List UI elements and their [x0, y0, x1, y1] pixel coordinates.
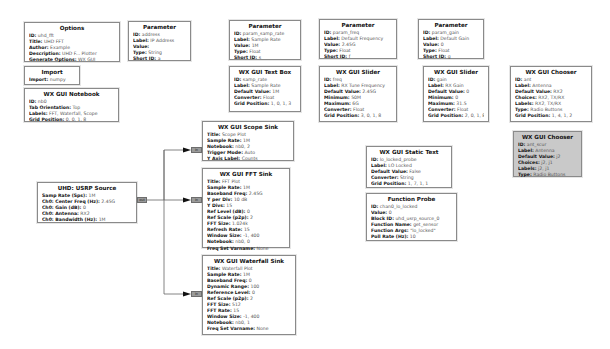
param-key: Type: [133, 50, 147, 55]
block-param-row: Grid Position: 1, 4, 1, 2 [515, 113, 587, 119]
param-value: 15 [233, 308, 239, 313]
block-parameter-samp-rate[interactable]: ParameterID: param_samp_rateLabel: Sampl… [229, 20, 301, 60]
param-key: Maximum: [428, 101, 455, 106]
block-param-row: Short ID: f [324, 54, 392, 60]
param-value: RX2 [80, 211, 89, 216]
param-value: Sample Rate [251, 83, 280, 88]
param-key: Label: [518, 148, 534, 153]
block-title: WX GUI Slider [324, 69, 392, 77]
param-key: Value: [234, 43, 250, 48]
block-wx-gui-waterfall-sink[interactable]: WX GUI Waterfall SinkTitle: Waterfall Pl… [202, 255, 296, 335]
param-key: Block ID: [371, 216, 394, 221]
waterfall-sink-in-port[interactable]: in [191, 291, 202, 297]
param-key: Choices: [518, 160, 540, 165]
block-wx-gui-scope-sink[interactable]: WX GUI Scope SinkTitle: Scope PlotSample… [202, 121, 294, 161]
param-key: Sample Rate: [207, 138, 242, 143]
param-value: Counts [242, 156, 258, 161]
param-key: Grid Position: [324, 113, 359, 118]
param-value: 1, 7, 1, 1 [408, 181, 428, 186]
param-key: ID: [324, 30, 331, 35]
block-param-row: Import: numpy [29, 77, 75, 83]
param-value: param_freq [333, 30, 359, 35]
param-value: 2.45G [101, 199, 115, 204]
block-uhd-usrp-source[interactable]: UHD: USRP SourceSamp Rate (Sps): 1MCh0: … [37, 182, 137, 223]
param-value: Default Frequency [341, 36, 383, 41]
block-wx-gui-notebook[interactable]: WX GUI NotebookID: nb0Tab Orientation: T… [24, 88, 119, 122]
param-key: Ch0: Center Freq (Hz): [42, 199, 100, 204]
param-key: Converter: [324, 107, 352, 112]
param-value: 0 [441, 42, 444, 47]
param-key: Label: [371, 163, 387, 168]
usrp-source-out-port[interactable]: out [137, 197, 147, 203]
block-import[interactable]: ImportImport: numpy [24, 66, 80, 85]
param-key: Label: [234, 37, 250, 42]
block-param-row: Freq Set Varname: None [207, 326, 291, 332]
param-key: Type: [324, 48, 338, 53]
block-wx-gui-slider-gain[interactable]: WX GUI SliderID: gainLabel: RX GainDefau… [423, 66, 489, 122]
param-key: ID: [371, 204, 378, 209]
block-wx-gui-static-text[interactable]: WX GUI Static TextID: lo_locked_probeLab… [366, 146, 452, 188]
block-wx-gui-text-box[interactable]: WX GUI Text BoxID: samp_rateLabel: Sampl… [229, 66, 301, 112]
param-value: 0 [389, 210, 392, 215]
param-value: Float [339, 48, 350, 53]
param-key: Notebook: [207, 239, 234, 244]
param-value: 6G [352, 101, 358, 106]
param-value: RX2, TX/RX [538, 95, 564, 100]
param-key: Labels: [518, 166, 537, 171]
param-value: Float [249, 49, 260, 54]
param-value: 0 [249, 278, 252, 283]
param-value: 1M [272, 89, 279, 94]
block-title: Import [29, 69, 75, 77]
block-title: Parameter [423, 22, 479, 30]
param-value: 0 [247, 209, 250, 214]
block-param-row: Grid Position: 1, 7, 1, 1 [371, 181, 447, 187]
block-wx-gui-slider-freq[interactable]: WX GUI SliderID: freqLabel: RX Tune Freq… [319, 66, 397, 122]
param-value: Top [72, 105, 80, 110]
scope-sink-in-port[interactable]: in [191, 147, 202, 153]
block-options[interactable]: OptionsID: uhd_fftTitle: UHD FFTAuthor: … [24, 22, 120, 62]
param-key: ID: [234, 77, 241, 82]
param-key: Labels: [29, 111, 48, 116]
param-value: 1, 4, 1, 2 [552, 113, 572, 118]
block-wx-gui-fft-sink[interactable]: WX GUI FFT SinkTitle: FFT PlotSample Rat… [202, 168, 290, 248]
param-key: Default Value: [234, 89, 271, 94]
param-key: Converter: [428, 107, 456, 112]
block-parameter-freq[interactable]: ParameterID: param_freqLabel: Default Fr… [319, 19, 397, 59]
block-title: WX GUI Notebook [29, 91, 114, 99]
block-title: UHD: USRP Source [42, 185, 132, 193]
block-title: WX GUI Text Box [234, 69, 296, 77]
flowgraph-canvas[interactable]: OptionsID: uhd_fftTitle: UHD FFTAuthor: … [0, 0, 610, 349]
param-value: False [409, 169, 421, 174]
param-key: ID: [428, 77, 435, 82]
param-key: Label: [428, 83, 444, 88]
param-value: 3, 0, 1, 8 [361, 113, 381, 118]
block-wx-gui-chooser-ant[interactable]: WX GUI ChooserID: antLabel: AntennaDefau… [510, 66, 592, 122]
block-title: Parameter [324, 22, 392, 30]
param-value: 1M [88, 193, 95, 198]
param-key: Ref Level (dB): [207, 209, 245, 214]
param-value: 1M [252, 43, 259, 48]
param-key: FFT Size: [207, 302, 231, 307]
param-value: Antenna [535, 148, 554, 153]
param-key: Poll Rate (Hz): [371, 234, 408, 239]
param-key: Label: [324, 83, 340, 88]
param-value: 0 [83, 205, 86, 210]
param-value: RX Gain [445, 83, 463, 88]
param-key: Ch0: Gain (dB): [42, 205, 81, 210]
block-title: Function Probe [371, 196, 452, 204]
param-value: 1, 0, 1, 3 [271, 101, 291, 106]
block-wx-gui-chooser-ant-scur[interactable]: WX GUI ChooserID: ant_scurLabel: Antenna… [513, 131, 582, 177]
block-param-row: Short ID: a [133, 56, 186, 62]
param-value: Default Gain [440, 36, 469, 41]
param-key: Maximum: [324, 101, 351, 106]
param-key: ID: [29, 99, 36, 104]
param-value: String [400, 175, 414, 180]
block-function-probe[interactable]: Function ProbeID: chan0_lo_lockedValue: … [366, 193, 457, 241]
param-value: Scope Plot [222, 132, 246, 137]
param-value: Float [438, 48, 449, 53]
block-parameter-gain[interactable]: ParameterID: param_gainLabel: Default Ga… [418, 19, 484, 59]
fft-sink-in-port[interactable]: in [191, 197, 202, 203]
param-value: RX Tune Frequency [341, 83, 385, 88]
param-key: Value: [133, 44, 149, 49]
block-parameter-address[interactable]: ParameterID: addressLabel: IP AddressVal… [128, 21, 191, 61]
